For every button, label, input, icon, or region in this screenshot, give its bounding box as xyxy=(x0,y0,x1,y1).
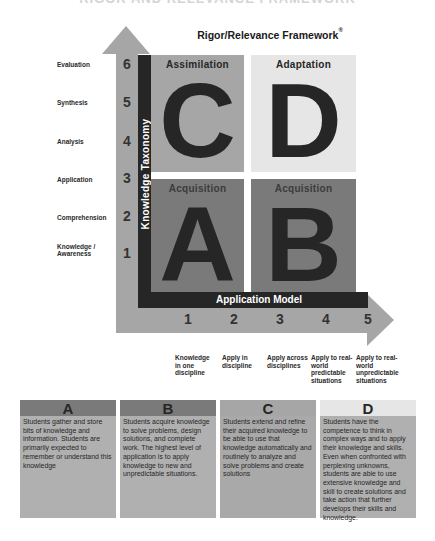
quadrant-letter: C xyxy=(151,67,244,172)
registered-mark: ® xyxy=(338,27,342,33)
framework-title: Rigor/Relevance Framework® xyxy=(140,29,400,41)
description-letter: D xyxy=(320,400,416,416)
y-level-comprehension: Comprehension xyxy=(57,214,112,221)
quadrant-letter: B xyxy=(251,191,356,292)
x-number-1: 1 xyxy=(178,311,198,327)
y-number-3: 3 xyxy=(116,170,138,186)
y-level-application: Application xyxy=(57,176,112,183)
y-number-6: 6 xyxy=(116,56,138,72)
x-number-2: 2 xyxy=(224,311,244,327)
y-level-evaluation: Evaluation xyxy=(57,61,112,68)
description-box-b: B Students acquire knowledge to solve pr… xyxy=(120,400,216,518)
quadrant-b-application: Acquisition B xyxy=(251,179,356,292)
description-text: Students acquire knowledge to solve prob… xyxy=(120,416,216,481)
description-box-a: A Students gather and store bits of know… xyxy=(20,400,116,518)
description-box-d: D Students have the competence to think … xyxy=(320,400,416,518)
quadrant-letter: A xyxy=(151,191,244,292)
description-letter: A xyxy=(20,400,116,416)
description-letter: C xyxy=(220,400,316,416)
description-text: Students extend and refine their acquire… xyxy=(220,416,316,481)
quadrant-letter: D xyxy=(251,67,356,172)
quadrant-a-acquisition: Acquisition A xyxy=(151,179,244,292)
description-box-c: C Students extend and refine their acqui… xyxy=(220,400,316,518)
knowledge-taxonomy-label: Knowledge Taxonomy xyxy=(138,55,151,292)
y-level-synthesis: Synthesis xyxy=(57,99,112,106)
x-number-5: 5 xyxy=(358,311,378,327)
vertical-arrow-shaft xyxy=(116,50,138,333)
description-letter: B xyxy=(120,400,216,416)
y-number-5: 5 xyxy=(116,94,138,110)
y-number-2: 2 xyxy=(116,208,138,224)
x-level-3: Apply across disciplines xyxy=(267,354,311,369)
description-text: Students have the competence to think in… xyxy=(320,416,416,524)
x-level-4: Apply to real-world predictable situatio… xyxy=(311,354,355,384)
x-number-4: 4 xyxy=(316,311,336,327)
description-text: Students gather and store bits of knowle… xyxy=(20,416,116,472)
x-level-5: Apply to real-world unpredictable situat… xyxy=(356,354,404,384)
x-level-1: Knowledge in one discipline xyxy=(175,354,215,377)
y-level-knowledge-awareness: Knowledge / Awareness xyxy=(57,243,102,257)
page-title-partial: RIGOR AND RELEVANCE FRAMEWORK xyxy=(0,0,435,6)
quadrant-c-assimilation: Assimilation C xyxy=(151,55,244,172)
framework-title-text: Rigor/Relevance Framework xyxy=(197,29,338,41)
x-level-2: Apply in discipline xyxy=(222,354,262,369)
y-level-analysis: Analysis xyxy=(57,138,112,145)
knowledge-taxonomy-text: Knowledge Taxonomy xyxy=(139,118,150,229)
quadrant-d-adaptation: Adaptation D xyxy=(251,55,356,172)
application-model-label: Application Model xyxy=(151,292,367,308)
y-number-1: 1 xyxy=(116,245,138,261)
y-number-4: 4 xyxy=(116,133,138,149)
x-number-3: 3 xyxy=(270,311,290,327)
